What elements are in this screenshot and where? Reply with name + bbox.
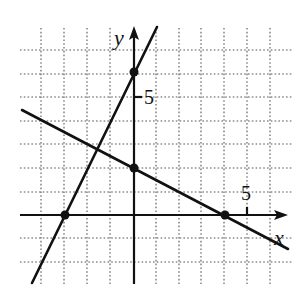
line-y-2x-plus-6 <box>32 27 157 283</box>
x-axis-label: x <box>273 225 284 250</box>
y-tick-label-5: 5 <box>144 86 154 108</box>
point-0-2 <box>130 164 139 173</box>
coordinate-graph: y x 5 5 <box>0 0 301 292</box>
point-4-0 <box>221 211 230 220</box>
x-tick-label-5: 5 <box>241 182 251 204</box>
grid <box>20 28 292 284</box>
point-neg3-0 <box>61 211 70 220</box>
y-axis-label: y <box>112 25 124 50</box>
point-0-6 <box>130 68 139 77</box>
line-y-neg-half-x-plus-2 <box>22 110 288 249</box>
